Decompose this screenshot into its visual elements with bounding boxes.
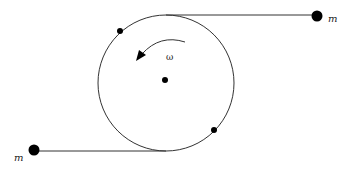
omega-label: ω [166,52,173,62]
rim-point-upper [117,28,123,34]
rim-point-lower [211,127,217,133]
rotation-arrow-arc [142,40,185,54]
pulley-diagram: ω m m [0,0,350,170]
center-point [162,77,168,83]
right-mass-label: m [328,13,337,24]
left-mass-label: m [14,152,23,163]
right-mass [312,11,323,22]
left-mass [29,145,40,156]
